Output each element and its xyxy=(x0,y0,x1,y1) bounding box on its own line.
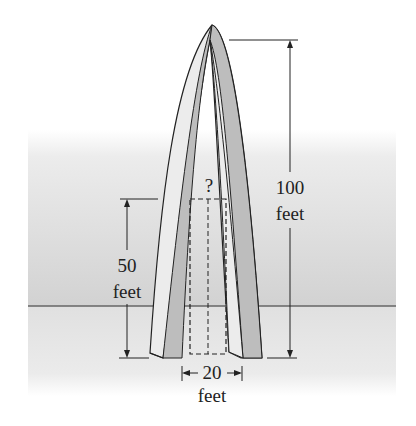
base-width-value-label: 20 xyxy=(197,363,227,383)
height-unit-label: feet xyxy=(268,204,312,224)
height-value-label: 100 xyxy=(268,178,312,198)
arrowhead-up-icon xyxy=(287,40,293,48)
background-wall xyxy=(28,130,396,306)
rect-height-value-label: 50 xyxy=(106,256,148,276)
unknown-label: ? xyxy=(200,176,218,196)
rect-height-unit-label: feet xyxy=(106,282,148,302)
base-width-unit-label: feet xyxy=(190,386,234,406)
